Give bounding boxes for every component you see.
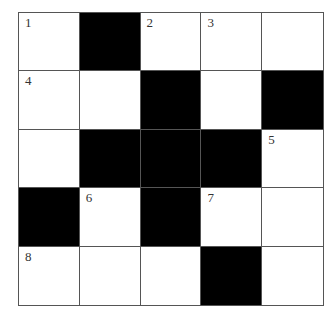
clue-number: 5	[268, 133, 275, 146]
crossword-cell[interactable]: 5	[262, 130, 323, 188]
crossword-cell[interactable]: 6	[80, 188, 141, 246]
crossword-cell[interactable]	[262, 188, 323, 246]
black-cell	[80, 13, 141, 71]
clue-number: 1	[25, 16, 32, 29]
crossword-cell[interactable]: 4	[19, 71, 80, 129]
crossword-cell[interactable]	[262, 13, 323, 71]
black-cell	[201, 130, 262, 188]
crossword-grid: 12345678	[18, 12, 324, 306]
black-cell	[19, 188, 80, 246]
clue-number: 7	[207, 191, 214, 204]
crossword-cell[interactable]	[19, 130, 80, 188]
crossword-cell[interactable]: 8	[19, 247, 80, 305]
clue-number: 6	[86, 191, 93, 204]
clue-number: 8	[25, 250, 32, 263]
clue-number: 2	[147, 16, 154, 29]
clue-number: 4	[25, 74, 32, 87]
black-cell	[80, 130, 141, 188]
black-cell	[141, 130, 202, 188]
black-cell	[262, 71, 323, 129]
crossword-cell[interactable]: 2	[141, 13, 202, 71]
crossword-cell[interactable]: 7	[201, 188, 262, 246]
crossword-cell[interactable]	[80, 247, 141, 305]
black-cell	[141, 71, 202, 129]
crossword-cell[interactable]	[80, 71, 141, 129]
crossword-cell[interactable]: 1	[19, 13, 80, 71]
crossword-cell[interactable]	[141, 247, 202, 305]
crossword-cell[interactable]: 3	[201, 13, 262, 71]
crossword-cell[interactable]	[262, 247, 323, 305]
crossword-cell[interactable]	[201, 71, 262, 129]
clue-number: 3	[207, 16, 214, 29]
black-cell	[141, 188, 202, 246]
black-cell	[201, 247, 262, 305]
